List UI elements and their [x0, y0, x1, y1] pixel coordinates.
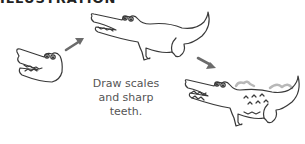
caption-line-3: teeth.	[84, 105, 168, 119]
crocodile-head-drawing	[17, 49, 62, 82]
arrow-up-right-icon	[66, 38, 84, 50]
crocodile-detailed-drawing	[185, 76, 299, 126]
arrow-down-right-icon	[198, 58, 216, 69]
caption-line-1: Draw scales	[84, 77, 168, 91]
crocodile-body-drawing	[91, 12, 209, 60]
step-caption: Draw scales and sharp teeth.	[84, 77, 168, 119]
crocodile-drawing-steps	[0, 0, 305, 144]
caption-line-2: and sharp	[84, 91, 168, 105]
